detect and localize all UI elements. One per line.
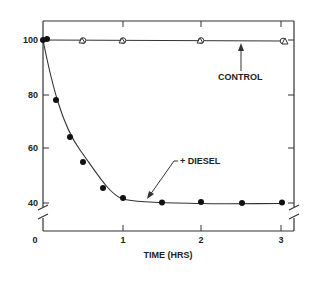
control-label: CONTROL xyxy=(218,72,263,82)
axis-break-icon xyxy=(38,205,299,219)
annotation-diesel: + DIESEL xyxy=(147,156,221,199)
x-tick-label-2: 2 xyxy=(198,235,203,245)
chart: 100 80 60 40 0 1 2 3 TIME (HRS) xyxy=(0,0,315,283)
x-axis-label: TIME (HRS) xyxy=(144,250,193,260)
plot-frame xyxy=(43,21,294,231)
y-tick-label-60: 60 xyxy=(28,143,38,153)
y-tick-label-100: 100 xyxy=(23,35,38,45)
y-ticks xyxy=(43,40,294,203)
diesel-label: + DIESEL xyxy=(180,156,221,166)
x-tick-label-3: 3 xyxy=(278,235,283,245)
y-tick-label-40: 40 xyxy=(28,198,38,208)
x-tick-label-1: 1 xyxy=(120,235,125,245)
y-tick-label-80: 80 xyxy=(28,90,38,100)
series-control xyxy=(43,38,288,44)
series-diesel xyxy=(40,36,285,206)
annotation-control: CONTROL xyxy=(218,43,263,82)
x-tick-label-0: 0 xyxy=(32,235,37,245)
